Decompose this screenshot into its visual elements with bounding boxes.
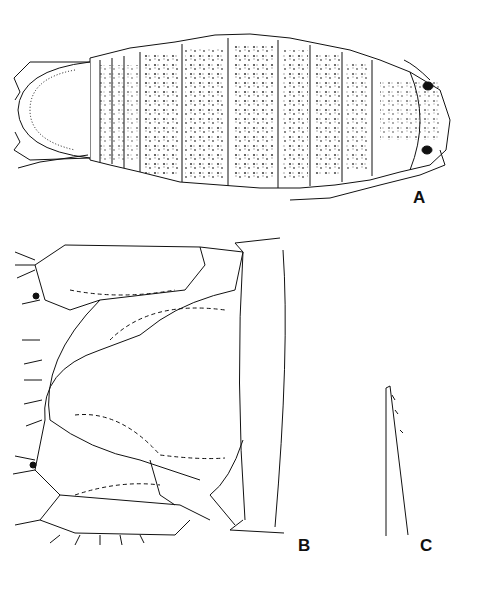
figure-illustration xyxy=(0,0,481,596)
panel-label-c: C xyxy=(420,536,432,556)
panel-label-b: B xyxy=(298,536,310,556)
panel-label-a: A xyxy=(413,188,425,208)
panel-a-drawing xyxy=(14,34,450,200)
panel-b-drawing xyxy=(13,238,285,545)
panel-c-drawing xyxy=(386,386,408,536)
